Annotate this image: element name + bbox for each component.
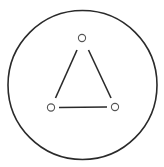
triangle-graph-diagram — [0, 0, 164, 167]
edge-top-bottom-left — [56, 50, 78, 98]
node-bottom-right — [111, 103, 118, 110]
graph-nodes — [47, 34, 118, 111]
graph-edges — [56, 50, 112, 108]
edge-bottom-left-bottom-right — [59, 107, 107, 108]
edge-top-bottom-right — [89, 50, 112, 98]
enclosing-circle — [8, 11, 157, 160]
node-top — [78, 34, 85, 41]
node-bottom-left — [47, 104, 54, 111]
